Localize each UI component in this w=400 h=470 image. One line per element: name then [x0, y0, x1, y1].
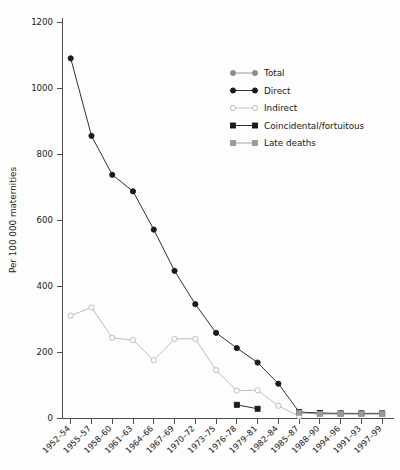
legend-marker [231, 141, 236, 146]
legend-marker [252, 88, 257, 93]
data-point-marker [193, 336, 198, 341]
data-point-marker [297, 410, 302, 415]
legend-item: Coincidental/fortuitous [231, 121, 365, 131]
data-point-marker [213, 330, 218, 335]
series-line [71, 307, 299, 416]
series-group [68, 56, 385, 419]
legend: TotalDirectIndirectCoincidental/fortuito… [230, 68, 364, 148]
legend-marker [252, 70, 257, 75]
legend-marker [252, 105, 257, 110]
data-point-marker [89, 133, 94, 138]
data-point-marker [110, 335, 115, 340]
data-point-marker [276, 381, 281, 386]
data-point-marker [255, 388, 260, 393]
data-point-marker [359, 412, 364, 417]
legend-item: Indirect [230, 103, 297, 113]
y-axis: 020040060080010001200 [31, 17, 62, 423]
y-tick-label: 1200 [31, 17, 53, 27]
y-tick-label: 600 [37, 215, 53, 225]
data-point-marker [338, 412, 343, 417]
y-axis-title-text: Per 100 000 maternities [8, 166, 18, 273]
y-tick-label: 0 [48, 413, 53, 423]
legend-marker [230, 70, 235, 75]
data-point-marker [89, 305, 94, 310]
data-point-marker [172, 336, 177, 341]
data-point-marker [255, 406, 260, 411]
data-point-marker [276, 403, 281, 408]
series-line [237, 405, 258, 409]
data-point-marker [234, 402, 239, 407]
data-point-marker [193, 302, 198, 307]
legend-label: Direct [264, 86, 291, 96]
legend-marker [231, 123, 236, 128]
x-axis: 1952–541955–571958–601961–631964–661967–… [40, 418, 394, 455]
data-point-marker [234, 345, 239, 350]
maternal-mortality-line-chart: 020040060080010001200Per 100 000 materni… [0, 0, 400, 470]
legend-marker [253, 141, 258, 146]
data-point-marker [172, 268, 177, 273]
data-point-marker [234, 388, 239, 393]
chart-canvas: 020040060080010001200Per 100 000 materni… [0, 0, 400, 470]
y-tick-label: 1000 [31, 83, 53, 93]
data-point-marker [317, 412, 322, 417]
y-tick-label: 400 [37, 281, 53, 291]
data-point-marker [213, 368, 218, 373]
data-point-marker [380, 412, 385, 417]
data-point-marker [151, 227, 156, 232]
legend-label: Indirect [264, 103, 298, 113]
legend-item: Late deaths [231, 138, 317, 148]
legend-item: Direct [230, 86, 290, 96]
data-point-marker [130, 189, 135, 194]
legend-label: Late deaths [264, 138, 316, 148]
y-tick-label: 800 [37, 149, 53, 159]
y-tick-label: 200 [37, 347, 53, 357]
legend-marker [230, 88, 235, 93]
data-point-marker [151, 358, 156, 363]
legend-marker [253, 123, 258, 128]
data-point-marker [68, 313, 73, 318]
legend-label: Coincidental/fortuitous [264, 121, 365, 131]
legend-item: Total [230, 68, 284, 78]
data-point-marker [110, 172, 115, 177]
series-indirect [68, 305, 302, 419]
data-point-marker [130, 338, 135, 343]
data-point-marker [255, 360, 260, 365]
data-point-marker [68, 56, 73, 61]
legend-marker [230, 105, 235, 110]
legend-label: Total [263, 68, 285, 78]
y-axis-title: Per 100 000 maternities [8, 166, 18, 273]
